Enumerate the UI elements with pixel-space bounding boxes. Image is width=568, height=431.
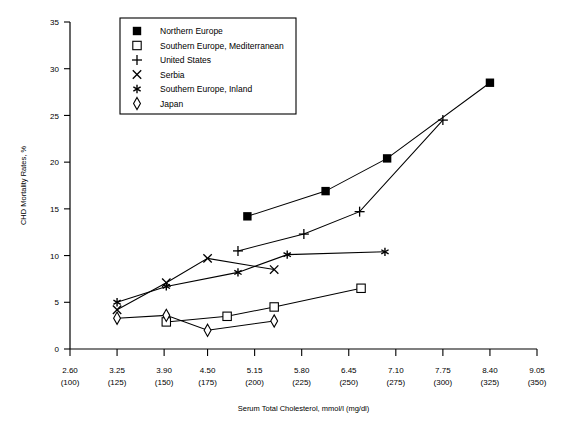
series-0-point-2-glyph [383, 154, 391, 162]
x-axis-tick-label-primary: 7.10 [388, 366, 404, 375]
series-5-point-3 [271, 315, 278, 327]
y-axis-tick-label: 0 [55, 345, 60, 354]
x-axis-tick-label-secondary: (250) [339, 378, 358, 387]
series-1-point-1 [223, 312, 231, 320]
y-axis-tick-label: 20 [50, 158, 59, 167]
y-axis-tick-label: 35 [50, 18, 59, 27]
series-0-point-3 [486, 79, 494, 87]
series-5-point-2-glyph [204, 324, 211, 336]
series-0-point-1 [321, 187, 329, 195]
y-axis-tick-label: 5 [55, 298, 60, 307]
x-axis-tick-label-secondary: (350) [528, 378, 547, 387]
x-axis-tick-label-secondary: (300) [434, 378, 453, 387]
x-axis-tick-label-secondary: (200) [245, 378, 264, 387]
x-axis-tick-label-secondary: (325) [481, 378, 500, 387]
series-1-point-2 [270, 303, 278, 311]
series-4-point-0 [113, 298, 120, 306]
legend-label-2: United States [160, 55, 211, 65]
series-5-point-0 [114, 312, 121, 324]
x-axis-tick-label-secondary: (175) [198, 378, 217, 387]
legend-label-3: Serbia [160, 70, 185, 80]
series-5-point-3-glyph [271, 315, 278, 327]
legend-label-5: Japan [160, 99, 183, 109]
series-5-point-2 [204, 324, 211, 336]
series-2-point-1 [299, 229, 309, 239]
chart-plot: 051015202530352.60(100)3.25(125)3.90(150… [0, 0, 568, 431]
series-0-point-1-glyph [321, 187, 329, 195]
x-axis-title: Serum Total Cholesterol, mmol/l (mg/dl) [238, 404, 370, 413]
legend-marker-0-glyph [133, 27, 141, 35]
x-axis-tick-label-primary: 4.50 [200, 366, 216, 375]
legend-label-4: Southern Europe, Inland [160, 84, 252, 94]
chart-container: 051015202530352.60(100)3.25(125)3.90(150… [0, 0, 568, 431]
x-axis-tick-label-primary: 9.05 [529, 366, 545, 375]
series-line-3 [117, 258, 274, 309]
y-axis-tick-label: 25 [50, 112, 59, 121]
legend-label-1: Southern Europe, Mediterranean [160, 41, 284, 51]
series-0-point-0 [243, 212, 251, 220]
legend-marker-1-glyph [133, 41, 141, 49]
y-axis-title: CHD Mortality Rates, % [19, 146, 28, 226]
legend-marker-0 [133, 27, 141, 35]
x-axis-tick-label-primary: 7.75 [435, 366, 451, 375]
series-1-point-3 [357, 284, 365, 292]
x-axis-tick-label-secondary: (125) [108, 378, 127, 387]
x-axis-tick-label-primary: 3.25 [109, 366, 125, 375]
x-axis-tick-label-primary: 6.45 [341, 366, 357, 375]
y-axis-tick-label: 30 [50, 65, 59, 74]
series-0-point-0-glyph [243, 212, 251, 220]
series-0-point-3-glyph [486, 79, 494, 87]
x-axis-tick-label-secondary: (275) [386, 378, 405, 387]
series-line-1 [166, 288, 361, 322]
series-line-5 [117, 315, 274, 330]
y-axis-tick-label: 15 [50, 205, 59, 214]
legend-label-0: Northern Europe [160, 26, 223, 36]
x-axis-tick-label-secondary: (100) [61, 378, 80, 387]
x-axis-tick-label-secondary: (150) [155, 378, 174, 387]
series-5-point-0-glyph [114, 312, 121, 324]
y-axis-tick-label: 10 [50, 252, 59, 261]
legend-marker-1 [133, 41, 141, 49]
series-1-point-1-glyph [223, 312, 231, 320]
x-axis-tick-label-primary: 8.40 [482, 366, 498, 375]
x-axis-tick-label-secondary: (225) [292, 378, 311, 387]
series-1-point-2-glyph [270, 303, 278, 311]
x-axis-tick-label-primary: 5.80 [294, 366, 310, 375]
series-2-point-0 [233, 246, 243, 256]
x-axis-tick-label-primary: 3.90 [156, 366, 172, 375]
series-1-point-3-glyph [357, 284, 365, 292]
x-axis-tick-label-primary: 5.15 [247, 366, 263, 375]
series-0-point-2 [383, 154, 391, 162]
x-axis-tick-label-primary: 2.60 [62, 366, 78, 375]
series-line-4 [117, 252, 385, 302]
